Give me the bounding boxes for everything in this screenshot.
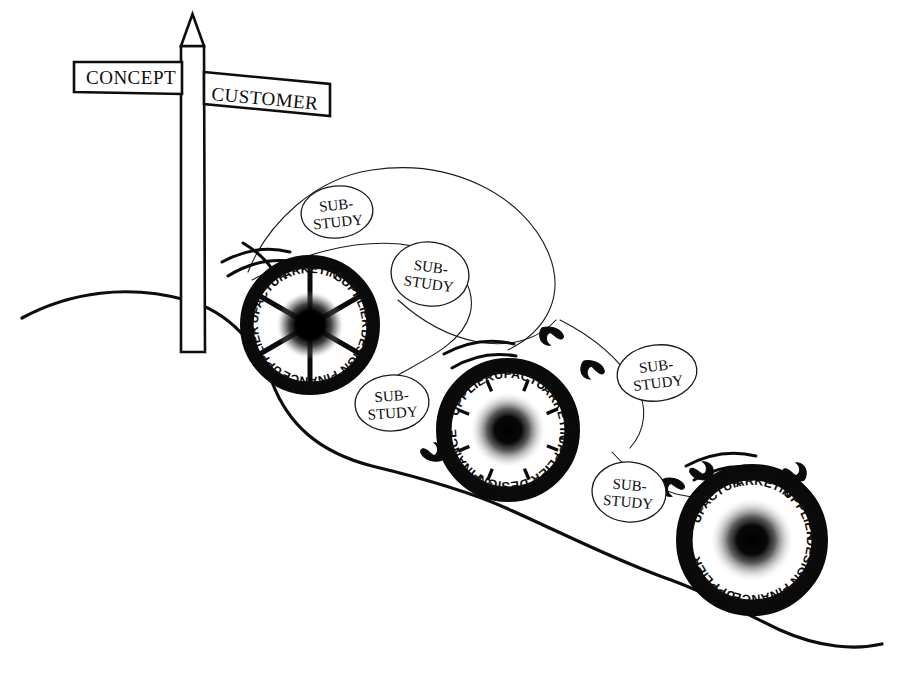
- wheel-2-hub: [470, 392, 546, 468]
- wheel-1-hub: [276, 291, 344, 359]
- signpost-body: [181, 46, 205, 352]
- substudy-3-line1: SUB-: [374, 387, 409, 405]
- wheel-3-hub: [710, 498, 794, 582]
- diagram-canvas: CONCEPT CUSTOMER MARKETINGSUPPLIERDESIGN…: [0, 0, 902, 674]
- concept-to-customer-diagram: CONCEPT CUSTOMER MARKETINGSUPPLIERDESIGN…: [0, 0, 902, 674]
- substudy-5-line1: SUB-: [612, 476, 647, 495]
- signpost-label-concept: CONCEPT: [86, 67, 176, 88]
